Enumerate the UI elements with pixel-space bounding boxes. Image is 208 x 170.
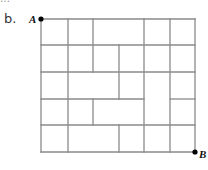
point-b-dot: [192, 149, 197, 154]
street-grid-diagram: AB: [0, 0, 208, 170]
point-a-dot: [38, 16, 43, 21]
grid-points: AB: [28, 13, 206, 160]
grid-lines: [41, 19, 195, 152]
point-a-label: A: [28, 13, 36, 25]
point-b-label: B: [198, 148, 206, 160]
